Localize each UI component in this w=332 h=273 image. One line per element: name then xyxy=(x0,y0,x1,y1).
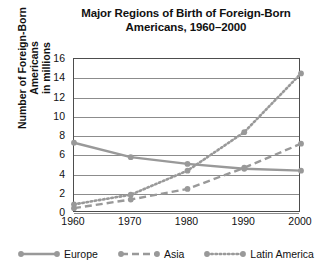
data-point xyxy=(298,141,304,147)
chart-title: Major Regions of Birth of Foreign-Born A… xyxy=(46,6,326,34)
x-axis-tick-labels: 19601970198019902000 xyxy=(73,215,300,231)
y-tick-12: 12 xyxy=(53,92,65,102)
data-point xyxy=(128,154,134,160)
data-point xyxy=(185,186,191,192)
data-point xyxy=(241,165,247,171)
series-line xyxy=(74,73,301,204)
x-tick-1980: 1980 xyxy=(175,215,198,227)
y-tick-4: 4 xyxy=(59,169,65,179)
y-tick-14: 14 xyxy=(53,72,65,82)
data-point xyxy=(185,168,191,174)
legend-label: Latin America xyxy=(250,248,314,260)
chart-title-line-1: Major Regions of Birth of Foreign-Born xyxy=(81,7,291,19)
x-tick-1960: 1960 xyxy=(61,215,84,227)
chart-container: Major Regions of Birth of Foreign-Born A… xyxy=(0,0,332,273)
legend-item-asia[interactable]: Asia xyxy=(118,248,184,260)
legend-item-latin-america[interactable]: Latin America xyxy=(204,248,314,260)
y-tick-10: 10 xyxy=(53,111,65,121)
chart-legend: EuropeAsiaLatin America xyxy=(0,244,332,264)
x-tick-2000: 2000 xyxy=(288,215,311,227)
chart-title-line-2: Americans, 1960–2000 xyxy=(126,21,247,33)
y-tick-16: 16 xyxy=(53,53,65,63)
legend-label: Asia xyxy=(164,248,184,260)
data-point xyxy=(71,140,77,146)
legend-swatch-dotted xyxy=(204,248,246,260)
data-point xyxy=(298,168,304,174)
data-point xyxy=(128,192,134,198)
plot-area xyxy=(73,58,300,212)
x-tick-1990: 1990 xyxy=(232,215,255,227)
series-layer xyxy=(74,59,301,213)
gridline-0 xyxy=(74,213,299,214)
legend-item-europe[interactable]: Europe xyxy=(18,248,98,260)
legend-swatch-dashed xyxy=(118,248,160,260)
data-point xyxy=(185,161,191,167)
legend-label: Europe xyxy=(64,248,98,260)
y-tick-8: 8 xyxy=(59,130,65,140)
y-axis-tick-labels: 0246810121416 xyxy=(0,58,69,212)
data-point xyxy=(71,201,77,207)
data-point xyxy=(298,71,304,77)
legend-swatch-solid xyxy=(18,248,60,260)
y-tick-2: 2 xyxy=(59,188,65,198)
data-point xyxy=(241,129,247,135)
x-tick-1970: 1970 xyxy=(118,215,141,227)
y-tick-6: 6 xyxy=(59,149,65,159)
